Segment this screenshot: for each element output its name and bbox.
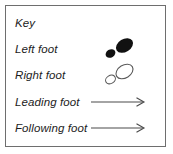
outlined-footprint-icon — [101, 62, 157, 88]
filled-footprint-icon — [101, 36, 157, 62]
legend-item-label-following-foot: Following foot — [15, 122, 87, 134]
legend-item-label-leading-foot: Leading foot — [15, 96, 80, 108]
legend-row: Right foot — [6, 62, 165, 88]
legend-panel: Key Left foot Right foot Leading foot — [5, 5, 166, 147]
legend-row: Leading foot — [6, 89, 165, 115]
arrow-right-icon — [90, 89, 162, 115]
arrow-right-icon — [90, 115, 162, 141]
legend-item-label-right-foot: Right foot — [15, 69, 65, 81]
legend-row: Following foot — [6, 115, 165, 141]
legend-title: Key — [15, 17, 35, 29]
legend-row: Left foot — [6, 36, 165, 62]
legend-row: Key — [6, 10, 165, 36]
legend-item-label-left-foot: Left foot — [15, 43, 57, 55]
